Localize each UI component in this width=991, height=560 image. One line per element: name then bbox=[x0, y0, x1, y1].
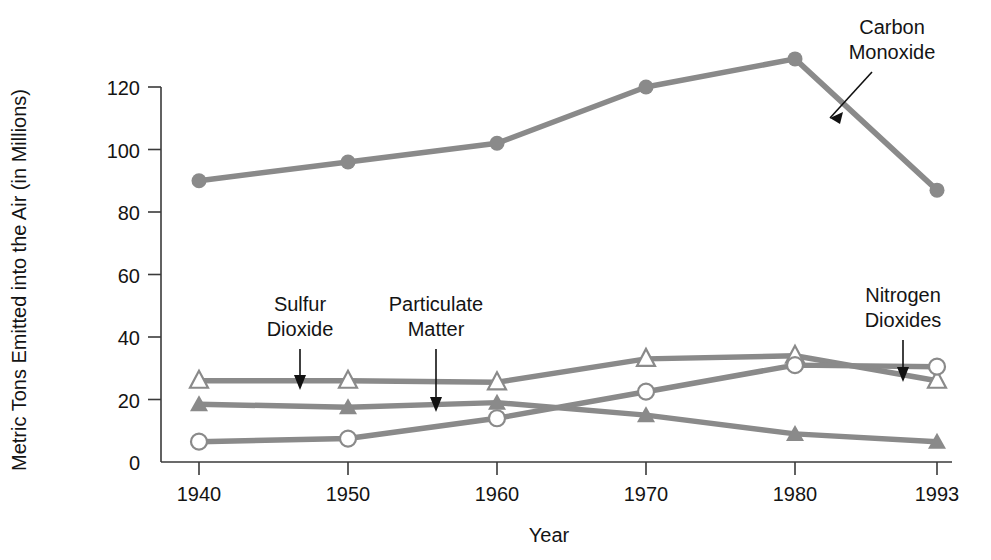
x-tick-label-1980: 1980 bbox=[773, 483, 818, 505]
annotation-carbon-monoxide-arrowhead bbox=[830, 112, 843, 124]
y-tick-label-100: 100 bbox=[107, 140, 140, 162]
annotation-sulfur-dioxide: Sulfur Dioxide bbox=[267, 293, 334, 390]
x-tick-label-1960: 1960 bbox=[475, 483, 520, 505]
annotation-particulate-matter-line2: Matter bbox=[408, 318, 465, 340]
x-tick-label-1950: 1950 bbox=[326, 483, 371, 505]
x-tick-label-1940: 1940 bbox=[177, 483, 222, 505]
series-line-sulfur-dioxide bbox=[199, 356, 937, 383]
y-tick-label-60: 60 bbox=[118, 265, 140, 287]
data-point-nitrogen-dioxides-1993 bbox=[929, 359, 945, 375]
data-point-nitrogen-dioxides-1970 bbox=[638, 384, 654, 400]
annotation-nitrogen-dioxides-line2: Dioxides bbox=[865, 309, 942, 331]
series-line-carbon-monoxide bbox=[199, 59, 937, 190]
data-point-carbon-monoxide-1993 bbox=[930, 183, 945, 198]
y-tick-label-120: 120 bbox=[107, 77, 140, 99]
data-point-nitrogen-dioxides-1950 bbox=[340, 431, 356, 447]
annotation-nitrogen-dioxides-line1: Nitrogen bbox=[865, 284, 941, 306]
series-line-nitrogen-dioxides bbox=[199, 365, 937, 442]
x-tick-label-1970: 1970 bbox=[624, 483, 669, 505]
data-point-nitrogen-dioxides-1960 bbox=[489, 410, 505, 426]
series-line-particulate-matter bbox=[199, 403, 937, 442]
data-point-nitrogen-dioxides-1980 bbox=[787, 357, 803, 373]
annotation-sulfur-dioxide-line1: Sulfur bbox=[274, 293, 327, 315]
annotation-sulfur-dioxide-line2: Dioxide bbox=[267, 318, 334, 340]
annotation-carbon-monoxide-line1: Carbon bbox=[859, 16, 925, 38]
annotation-particulate-matter-line1: Particulate bbox=[389, 293, 484, 315]
x-axis-ticks bbox=[199, 462, 937, 475]
annotation-particulate-matter: Particulate Matter bbox=[389, 293, 484, 412]
chart-canvas: 120 100 80 60 40 20 0 1940 1950 1960 197… bbox=[0, 0, 991, 560]
y-axis-title: Metric Tons Emitted into the Air (in Mil… bbox=[8, 89, 30, 471]
data-point-carbon-monoxide-1940 bbox=[192, 173, 207, 188]
y-tick-label-80: 80 bbox=[118, 202, 140, 224]
annotation-carbon-monoxide-line2: Monoxide bbox=[849, 41, 936, 63]
series-layer bbox=[190, 51, 946, 449]
x-tick-label-1993: 1993 bbox=[915, 483, 960, 505]
data-point-carbon-monoxide-1970 bbox=[639, 80, 654, 95]
series-carbon-monoxide bbox=[192, 51, 945, 197]
data-point-carbon-monoxide-1950 bbox=[341, 155, 356, 170]
data-point-nitrogen-dioxides-1940 bbox=[191, 434, 207, 450]
data-point-carbon-monoxide-1960 bbox=[490, 136, 505, 151]
y-tick-label-40: 40 bbox=[118, 327, 140, 349]
x-axis-title: Year bbox=[529, 524, 570, 546]
y-tick-label-0: 0 bbox=[129, 452, 140, 474]
y-axis-ticks bbox=[148, 87, 161, 400]
data-point-carbon-monoxide-1980 bbox=[788, 51, 803, 66]
y-tick-label-20: 20 bbox=[118, 390, 140, 412]
emissions-line-chart: 120 100 80 60 40 20 0 1940 1950 1960 197… bbox=[0, 0, 991, 560]
